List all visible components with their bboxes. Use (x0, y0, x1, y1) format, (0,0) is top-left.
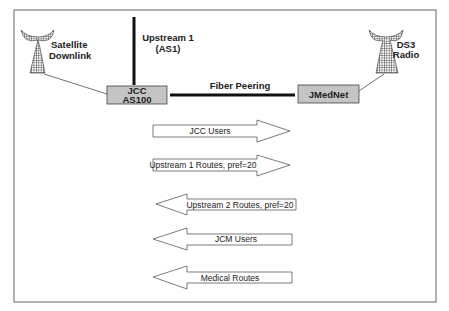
arrow-label: Upstream 2 Routes, pref=20 (186, 200, 293, 210)
jmednet-node[interactable]: JMedNet (298, 85, 359, 103)
arrow-upstream2-routes: Upstream 2 Routes, pref=20 (156, 194, 296, 215)
upstream1-label-line1: Upstream 1 (142, 32, 194, 43)
jmednet-label: JMedNet (309, 89, 349, 100)
satellite-label-line2: Downlink (49, 50, 92, 61)
jcc-label-line2: AS100 (122, 94, 151, 105)
arrow-medical-routes: Medical Routes (153, 266, 292, 289)
fiber-peering-label: Fiber Peering (210, 80, 271, 91)
satellite-label-line1: Satellite (51, 39, 87, 50)
network-diagram: Satellite Downlink DS3 Radio Upstream 1 … (0, 0, 449, 311)
arrow-jcm-users: JCM Users (153, 228, 292, 250)
arrow-label: Medical Routes (201, 273, 260, 283)
arrow-upstream1-routes: Upstream 1 Routes, pref=20 (149, 155, 290, 176)
arrow-label: JCM Users (215, 234, 257, 244)
jcc-node[interactable]: JCC AS100 (107, 85, 167, 105)
arrow-label: Upstream 1 Routes, pref=20 (149, 160, 256, 170)
upstream1-label-line2: (AS1) (156, 43, 181, 54)
ds3-label-line2: Radio (393, 49, 420, 60)
arrow-label: JCC Users (189, 126, 230, 136)
arrow-jcc-users: JCC Users (153, 120, 290, 142)
satellite-link (44, 74, 107, 94)
ds3-link (359, 74, 384, 91)
